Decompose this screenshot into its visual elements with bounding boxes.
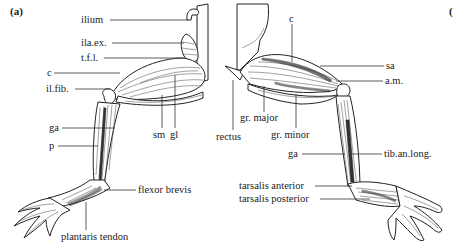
label-gr-minor: gr. minor: [271, 130, 310, 141]
panel-label-a: (a): [10, 5, 23, 17]
label-gr-major: gr. major: [240, 113, 278, 124]
label-c-right: c: [289, 14, 294, 25]
panel-label-b-partial: (: [449, 5, 453, 17]
label-rectus: rectus: [216, 132, 241, 143]
label-tarsalis-posterior: tarsalis posterior: [239, 194, 309, 205]
label-ila-ex: ila.ex.: [81, 38, 107, 49]
label-c-left: c: [47, 68, 52, 79]
label-p: p: [49, 141, 54, 152]
label-ilium: ilium: [81, 15, 103, 26]
label-ga-right: ga: [288, 149, 298, 160]
label-tib-an-long: tib.an.long.: [384, 149, 432, 160]
label-gl: gl: [170, 130, 178, 141]
label-sa: sa: [386, 61, 395, 72]
label-flexor-brevis: flexor brevis: [138, 185, 191, 196]
label-il-fib: il.fib.: [46, 84, 69, 95]
label-ga-left: ga: [49, 123, 59, 134]
label-sm: sm: [153, 130, 165, 141]
label-tfl: t.f.l.: [81, 53, 98, 64]
label-plantaris-tendon: plantaris tendon: [61, 232, 128, 243]
anatomy-drawing: [0, 0, 455, 244]
label-tarsalis-anterior: tarsalis anterior: [239, 181, 304, 192]
label-am: a.m.: [385, 76, 403, 87]
diagram-figure: (a) ( ilium ila.ex. t.f.l. c il.fib. sm …: [0, 0, 455, 244]
left-leg-drawing: [14, 4, 208, 238]
